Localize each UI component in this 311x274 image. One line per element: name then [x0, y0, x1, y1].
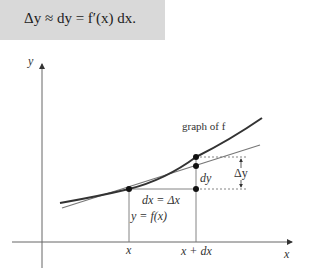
- y-eq-label: y = f(x): [130, 209, 167, 223]
- x-plus-dx-tick-label: x + dx: [180, 244, 212, 258]
- dy-label: dy: [200, 171, 212, 185]
- differential-diagram: y x graph of f dy Δy dx = Δx y = f(x) x …: [0, 0, 311, 274]
- point-curve-x-plus-dx: [193, 154, 199, 160]
- dx-eq-label: dx = Δx: [142, 193, 180, 207]
- function-curve: [60, 118, 262, 203]
- delta-y-label: Δy: [234, 166, 248, 180]
- y-axis-label: y: [27, 54, 34, 68]
- point-x: [126, 186, 132, 192]
- x-axis-label: x: [283, 247, 290, 261]
- graph-of-f-label: graph of f: [182, 120, 226, 132]
- point-x-plus-dx-base: [193, 186, 199, 192]
- x-tick-label: x: [125, 243, 132, 257]
- point-tangent-x-plus-dx: [193, 163, 199, 169]
